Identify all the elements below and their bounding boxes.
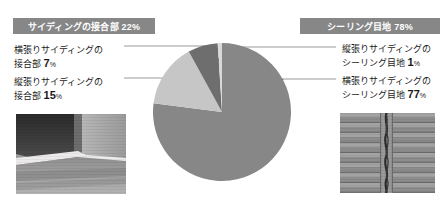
photo-yoko-joint-image (16, 114, 126, 194)
pie-slice-group (153, 43, 291, 181)
callout-yoko-seal-unit: % (420, 92, 426, 99)
callout-yoko-seal-line1: 横張りサイディングの (342, 75, 431, 88)
callout-yoko-joint-unit: % (50, 61, 56, 68)
photo-yoko-joint (16, 114, 126, 194)
callout-tate-joint: 縦張りサイディングの 接合部 15% (14, 76, 103, 103)
callout-yoko-seal-text: シーリング目地 (342, 90, 405, 100)
callout-tate-joint-unit: % (56, 93, 62, 100)
callout-yoko-joint-line2: 接合部 7% (14, 57, 103, 71)
callout-yoko-joint-line1: 横張りサイディングの (14, 44, 103, 57)
callout-yoko-joint: 横張りサイディングの 接合部 7% (14, 44, 103, 71)
callout-yoko-seal-line2: シーリング目地 77% (342, 88, 431, 102)
callout-yoko-seal: 横張りサイディングの シーリング目地 77% (342, 75, 431, 102)
callout-tate-joint-line2: 接合部 15% (14, 89, 103, 103)
callout-yoko-joint-text: 接合部 (14, 59, 41, 69)
callout-tate-seal-line1: 縦張りサイディングの (342, 43, 431, 56)
photo-tate-seal-image (340, 113, 435, 193)
badge-siding-joint: サイディングの接合部 22% (13, 18, 155, 34)
callout-tate-seal-line2: シーリング目地 1% (342, 56, 431, 70)
callout-tate-joint-text: 接合部 (14, 91, 41, 101)
callout-tate-seal-unit: % (414, 60, 420, 67)
badge-sealing-joint: シーリング目地 78% (300, 18, 440, 34)
photo-tate-seal (340, 113, 435, 193)
callout-yoko-seal-value: 77 (408, 88, 420, 100)
pie-chart-svg (153, 43, 291, 181)
callout-tate-seal: 縦張りサイディングの シーリング目地 1% (342, 43, 431, 70)
pie-chart (153, 43, 291, 181)
callout-tate-joint-line1: 縦張りサイディングの (14, 76, 103, 89)
callout-tate-seal-text: シーリング目地 (342, 58, 405, 68)
infographic-root: サイディングの接合部 22% シーリング目地 78% 横張りサイディングの 接合… (0, 0, 446, 209)
callout-tate-joint-value: 15 (44, 89, 56, 101)
